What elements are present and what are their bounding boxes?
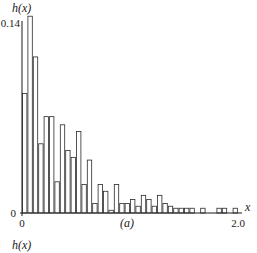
histogram-bar	[77, 132, 81, 213]
histogram-bar	[98, 185, 102, 214]
histogram-bar	[147, 199, 151, 213]
histogram-bar	[163, 204, 167, 214]
histogram-bar	[174, 208, 178, 213]
y-axis-label: h(x)	[12, 1, 31, 15]
histogram-bar	[201, 208, 205, 213]
bars-group	[23, 16, 238, 213]
histogram-bar	[136, 206, 140, 213]
x-tick-label-end: 2.0	[231, 217, 245, 229]
histogram-bar	[87, 160, 91, 213]
histogram-bar	[82, 185, 86, 214]
histogram-bar	[141, 195, 145, 213]
histogram-bar	[185, 208, 189, 213]
histogram-bar	[222, 208, 226, 213]
histogram-bar	[168, 206, 172, 213]
histogram-bar	[190, 208, 194, 213]
next-panel-y-label: h(x)	[12, 238, 31, 252]
histogram-bar	[60, 125, 64, 213]
histogram-bar	[28, 16, 32, 213]
histogram-bar	[217, 208, 221, 213]
histogram-bar	[125, 204, 129, 214]
histogram-bar	[120, 204, 124, 214]
panel-label: (a)	[120, 216, 134, 230]
histogram-bar	[158, 195, 162, 213]
histogram-bar	[93, 204, 97, 214]
histogram-bar	[233, 208, 237, 213]
histogram-bar	[55, 182, 59, 213]
histogram-bar	[104, 191, 108, 213]
x-axis-label: x	[244, 200, 251, 214]
y-tick-label-zero: 0	[11, 207, 17, 219]
histogram-chart: h(x) 0.14 0 0 2.0 x (a) h(x)	[0, 0, 257, 253]
histogram-bar	[179, 208, 183, 213]
histogram-bar	[71, 157, 75, 213]
x-tick-label-zero: 0	[19, 217, 25, 229]
histogram-bar	[44, 117, 48, 213]
histogram-bar	[152, 206, 156, 213]
histogram-bar	[66, 151, 70, 213]
histogram-bar	[39, 144, 43, 213]
histogram-bar	[131, 199, 135, 213]
histogram-bar	[33, 57, 37, 213]
histogram-bar	[23, 94, 27, 213]
histogram-bar	[114, 185, 118, 214]
y-tick-label-top: 0.14	[1, 17, 21, 29]
histogram-bar	[50, 117, 54, 213]
